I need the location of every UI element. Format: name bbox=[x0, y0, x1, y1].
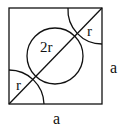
top-right-radius-label: r bbox=[87, 23, 92, 39]
inner-circle-label: 2r bbox=[40, 39, 53, 55]
right-side-label: a bbox=[110, 59, 117, 76]
bottom-side-label: a bbox=[53, 110, 60, 127]
geometry-diagram: 2r r r a a bbox=[0, 0, 124, 129]
bottom-left-radius-label: r bbox=[16, 77, 21, 93]
